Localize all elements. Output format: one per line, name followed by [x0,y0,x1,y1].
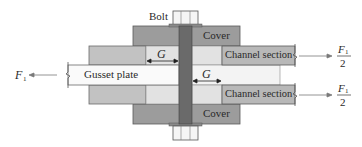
force-right-bottom-denominator: 2 [340,97,346,108]
bolt-shaft [179,26,192,124]
nut-icon [169,123,202,140]
force-arrow-right-top [299,54,332,58]
grip-region-top-right [192,46,222,65]
bolt-label: Bolt [149,11,168,22]
force-left-symbol: F [15,69,22,81]
force-right-bottom-subscript: 1 [345,88,349,95]
grip-left-label: G [157,48,166,60]
grip-right-label: G [202,68,211,80]
force-right-top-subscript: 1 [345,49,349,56]
force-arrow-right-bottom [299,93,332,97]
filler-bottom-left [89,85,146,104]
channel-section-top-label: Channel section [225,50,292,61]
force-left-subscript: 1 [23,76,27,83]
gusset-plate-label: Gusset plate [84,69,138,80]
cover-bottom-label: Cover [203,108,230,119]
force-right-top-symbol: F [338,44,345,55]
force-right-bottom-symbol: F [338,83,345,94]
filler-top-left [89,46,146,65]
grip-region-bottom-left [146,85,179,104]
force-right-top-denominator: 2 [340,58,346,69]
bolt-head-icon [169,11,202,27]
force-arrow-left [29,73,57,77]
channel-section-bottom-label: Channel section [225,89,292,100]
cover-top-label: Cover [203,30,230,41]
bolted-joint-diagram [0,0,362,147]
grip-region-bottom-right [192,85,222,104]
